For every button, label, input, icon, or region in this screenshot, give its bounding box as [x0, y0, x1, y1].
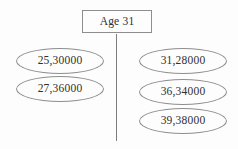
right-branch-node-2: 36,34000 [139, 79, 227, 105]
left-branch-node-1-label: 25,30000 [38, 55, 83, 67]
root-node-label: Age 31 [100, 16, 135, 28]
right-branch-node-2-label: 36,34000 [161, 86, 206, 98]
left-branch-node-2: 27,36000 [16, 76, 104, 102]
left-branch-node-2-label: 27,36000 [38, 83, 83, 95]
connector-vertical-line [116, 34, 117, 141]
right-branch-node-1-label: 31,28000 [161, 55, 206, 67]
right-branch-node-3: 39,38000 [139, 108, 227, 134]
right-branch-node-1: 31,28000 [139, 48, 227, 74]
right-branch-node-3-label: 39,38000 [161, 115, 206, 127]
left-branch-node-1: 25,30000 [16, 48, 104, 74]
root-node-age-31: Age 31 [82, 10, 152, 33]
diagram-canvas: Age 31 25,30000 27,36000 31,28000 36,340… [0, 0, 238, 149]
